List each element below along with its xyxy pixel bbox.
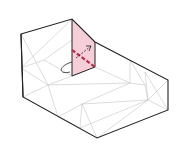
mesh-lines <box>21 19 168 138</box>
wireframe-diagram <box>0 0 178 148</box>
section-plane <box>72 19 95 76</box>
